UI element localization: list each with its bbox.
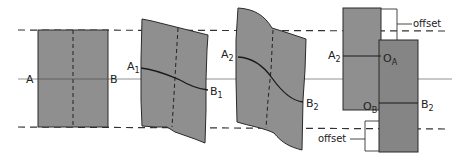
fault-diagram: A B A1 B1 A2 B2 A2 OA OB B2 offset offse… (0, 0, 461, 164)
label-b2-faulted: B2 (421, 98, 434, 113)
block-strong-bend (236, 8, 306, 150)
label-offset-bottom: offset (318, 133, 346, 144)
label-offset-top: offset (413, 18, 441, 29)
label-a2: A2 (221, 48, 234, 63)
panel-original: A B (26, 30, 118, 127)
panel-strong-bend: A2 B2 (221, 8, 319, 150)
block-slight-bend (141, 19, 208, 143)
label-b: B (110, 73, 118, 86)
offset-bracket-top (381, 9, 397, 40)
panel-faulted: A2 OA OB B2 offset offset (318, 8, 441, 152)
label-a2-faulted: A2 (328, 49, 341, 64)
label-a1: A1 (127, 60, 140, 75)
label-b2: B2 (306, 97, 319, 112)
panel-slight-bend: A1 B1 (127, 19, 223, 143)
label-b1: B1 (210, 85, 223, 100)
offset-bracket-bottom (365, 121, 379, 151)
label-a: A (26, 73, 34, 86)
block-upthrown (343, 8, 381, 110)
